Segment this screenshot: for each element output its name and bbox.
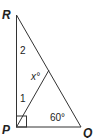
angle-label-1: 1 xyxy=(20,93,26,104)
angle-label-x: x° xyxy=(30,71,40,82)
triangle-diagram: R P Q 2 1 x° 60° xyxy=(0,0,95,138)
diagram-canvas: R P Q 2 1 x° 60° xyxy=(0,0,95,138)
angle-label-60: 60° xyxy=(50,112,65,123)
vertex-label-r: R xyxy=(2,8,11,22)
vertex-label-q: Q xyxy=(83,126,93,138)
angle-label-2: 2 xyxy=(20,45,26,56)
vertex-label-p: P xyxy=(2,123,11,137)
